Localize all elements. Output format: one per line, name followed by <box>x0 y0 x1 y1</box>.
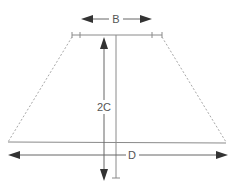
bottom-edge <box>8 142 226 143</box>
lampshade-dimension-diagram: B 2C D <box>0 0 240 191</box>
top-edge <box>72 32 162 38</box>
arrow-right-icon <box>216 151 228 159</box>
arrow-left-icon <box>81 15 93 23</box>
label-d: D <box>128 149 136 161</box>
arrow-up-icon <box>100 37 108 49</box>
right-side-dashed <box>162 37 226 142</box>
center-reference-line <box>112 35 120 178</box>
arrow-down-icon <box>100 169 108 181</box>
left-side-dashed <box>8 37 72 142</box>
dimension-b: B <box>81 13 152 25</box>
label-2c: 2C <box>97 101 111 113</box>
arrow-left-icon <box>8 151 20 159</box>
dimension-2c: 2C <box>97 37 111 181</box>
label-b: B <box>112 13 119 25</box>
dimension-d: D <box>8 149 228 161</box>
arrow-right-icon <box>140 15 152 23</box>
